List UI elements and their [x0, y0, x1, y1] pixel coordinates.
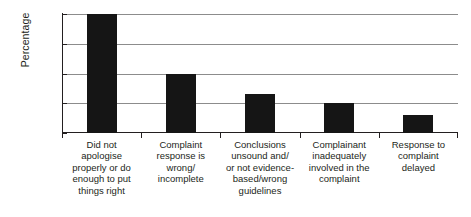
category-label-line: involved in the [302, 162, 377, 173]
x-tick-mark [457, 133, 458, 138]
bar [166, 74, 196, 134]
bar [403, 115, 433, 133]
category-label-line: Complaint [143, 139, 218, 150]
x-axis-ticks [62, 133, 458, 138]
plot-area [62, 14, 458, 133]
x-tick-mark [220, 133, 221, 138]
bar-chart: Percentage 40%30%20%10%0% Did notapologi… [0, 0, 471, 217]
category-label-line: Complainant [302, 139, 377, 150]
category-label-line: delayed [381, 162, 456, 173]
category-label: Conclusionsunsound and/or not evidence-b… [220, 139, 299, 196]
category-label-line: Conclusions [222, 139, 297, 150]
x-tick-mark [62, 133, 63, 138]
category-label-line: enough to put [64, 173, 139, 184]
category-label-line: complaint [302, 173, 377, 184]
category-label-line: based/wrong [222, 173, 297, 184]
category-label-line: inadequately [302, 150, 377, 161]
bar-slot [379, 14, 458, 133]
bar [324, 103, 354, 133]
x-axis-category-labels: Did notapologiseproperly or doenough to … [62, 139, 458, 196]
category-label-line: properly or do [64, 162, 139, 173]
category-label-line: unsound and/ [222, 150, 297, 161]
category-label-line: wrong/ [143, 162, 218, 173]
bar [87, 14, 117, 133]
category-label-line: Response to [381, 139, 456, 150]
category-label: Complainantinadequatelyinvolved in theco… [300, 139, 379, 196]
x-tick-mark [141, 133, 142, 138]
category-label: Did notapologiseproperly or doenough to … [62, 139, 141, 196]
bar [245, 94, 275, 133]
category-label-line: Did not [64, 139, 139, 150]
category-label-line: things right [64, 185, 139, 196]
x-tick-mark [379, 133, 380, 138]
bar-slot [300, 14, 379, 133]
bar-slot [141, 14, 220, 133]
bar-slot [62, 14, 141, 133]
category-label-line: response is [143, 150, 218, 161]
category-label-line: complaint [381, 150, 456, 161]
bars-layer [62, 14, 458, 133]
y-axis-title: Percentage [19, 0, 31, 95]
category-label-line: or not evidence- [222, 162, 297, 173]
category-label-line: incomplete [143, 173, 218, 184]
category-label-line: guidelines [222, 185, 297, 196]
bar-slot [220, 14, 299, 133]
category-label-line: apologise [64, 150, 139, 161]
category-label: Response tocomplaintdelayed [379, 139, 458, 196]
x-tick-mark [300, 133, 301, 138]
category-label: Complaintresponse iswrong/incomplete [141, 139, 220, 196]
